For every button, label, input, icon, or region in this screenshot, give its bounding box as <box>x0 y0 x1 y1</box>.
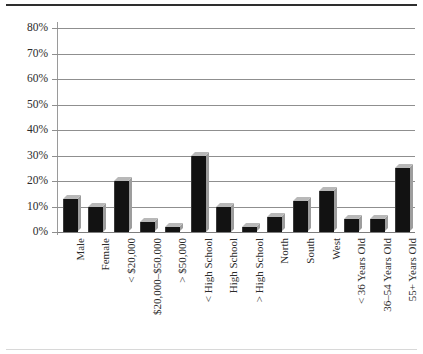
bar[interactable] <box>267 28 281 232</box>
x-axis-category-labels: MaleFemale< $20,000$20,000–$50,000> $50,… <box>57 238 415 350</box>
x-axis-category-label: West <box>331 238 342 260</box>
bar-front-face <box>293 201 308 232</box>
bar[interactable] <box>88 28 102 232</box>
x-axis-category-label: High School <box>228 238 239 293</box>
bar[interactable] <box>216 28 230 232</box>
x-axis-category-label: 55+ Years Old <box>407 238 418 301</box>
bar[interactable] <box>140 28 154 232</box>
bar-front-face <box>395 168 410 232</box>
bar-front-face <box>344 219 359 232</box>
bar-front-face <box>267 217 282 232</box>
bar-series <box>57 28 415 232</box>
y-axis-label: 10% <box>27 201 48 213</box>
bar[interactable] <box>293 28 307 232</box>
x-axis-category-label: Male <box>75 238 86 261</box>
x-axis-category-label: > High School <box>254 238 265 302</box>
bar[interactable] <box>191 28 205 232</box>
bar-front-face <box>88 207 103 233</box>
bar[interactable] <box>242 28 256 232</box>
x-axis-category-label: North <box>279 238 290 264</box>
bar[interactable] <box>319 28 333 232</box>
bar-top-face <box>191 152 209 156</box>
y-axis-label: 20% <box>27 175 48 187</box>
x-axis-category-label: 36–54 Years Old <box>382 238 393 312</box>
y-axis-label: 0% <box>33 226 48 238</box>
x-axis-category-label: < $20,000 <box>126 238 137 283</box>
bar[interactable] <box>63 28 77 232</box>
y-axis-label: 50% <box>27 99 48 111</box>
bar-front-face <box>63 199 78 232</box>
bar[interactable] <box>165 28 179 232</box>
x-axis-category-label: $20,000–$50,000 <box>152 238 163 315</box>
bar-front-face <box>114 181 129 232</box>
x-axis-category-label: < 36 Years Old <box>356 238 367 304</box>
bar[interactable] <box>344 28 358 232</box>
x-axis-category-label: < High School <box>203 238 214 302</box>
bar-front-face <box>242 227 257 232</box>
y-tick-mark <box>52 232 58 233</box>
bar[interactable] <box>114 28 128 232</box>
y-axis-label: 70% <box>27 48 48 60</box>
bar-front-face <box>216 207 231 233</box>
x-axis-category-label: Female <box>100 238 111 270</box>
y-axis-label: 30% <box>27 150 48 162</box>
x-axis-category-label: > $50,000 <box>177 238 188 283</box>
bar-front-face <box>191 156 206 233</box>
y-axis-label: 60% <box>27 73 48 85</box>
top-rule <box>6 4 417 6</box>
bar-front-face <box>370 219 385 232</box>
y-axis-label: 40% <box>27 124 48 136</box>
y-axis-label: 80% <box>27 22 48 34</box>
plot-area: 0%10%20%30%40%50%60%70%80% <box>57 28 415 232</box>
bar-front-face <box>165 227 180 232</box>
bar-front-face <box>140 222 155 232</box>
bar[interactable] <box>395 28 409 232</box>
bar-front-face <box>319 191 334 232</box>
bar[interactable] <box>370 28 384 232</box>
x-axis-category-label: South <box>305 238 316 264</box>
chart-figure: 0%10%20%30%40%50%60%70%80% MaleFemale< $… <box>0 0 423 354</box>
gridline-0pct <box>57 232 415 233</box>
